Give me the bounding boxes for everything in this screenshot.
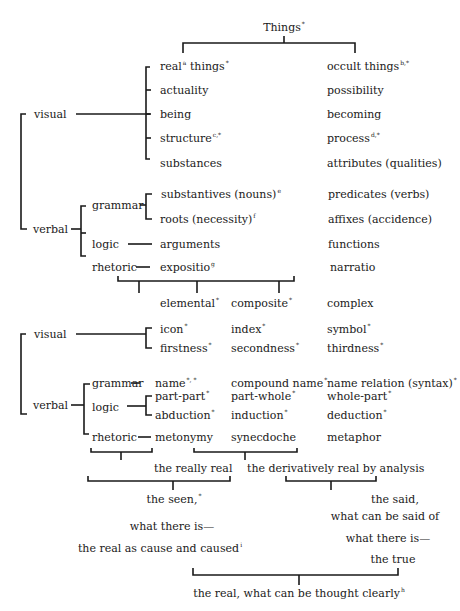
verbal-label: verbal xyxy=(33,223,68,236)
row-right: processd,* xyxy=(327,132,380,145)
seen-line: the seen,* xyxy=(147,493,202,506)
row-right: predicates (verbs) xyxy=(328,188,429,201)
rhetoric-label-2: rhetoric xyxy=(92,431,137,444)
occult-things-label: occult thingsb,* xyxy=(327,60,409,73)
grammar-label-2: grammar xyxy=(92,377,144,390)
logic-label-2: logic xyxy=(92,401,119,414)
header-composite: composite* xyxy=(231,297,292,310)
grammar-label: grammar xyxy=(92,199,144,212)
cell: deduction* xyxy=(327,409,386,422)
cell: induction* xyxy=(231,409,288,422)
really-real-label: the really real xyxy=(154,462,232,475)
row-left: substances xyxy=(160,157,222,170)
row-right: functions xyxy=(328,238,380,251)
rhetoric-label: rhetoric xyxy=(92,261,137,274)
cell: secondness* xyxy=(231,342,299,355)
said-line: the said, xyxy=(371,493,419,506)
cell: abduction* xyxy=(155,409,215,422)
row-left: arguments xyxy=(160,238,220,251)
logic-label: logic xyxy=(92,238,119,251)
said-line: the true xyxy=(371,553,416,566)
cell: metaphor xyxy=(327,431,381,444)
cell: icon* xyxy=(160,323,187,336)
said-line: what can be said of xyxy=(331,510,439,523)
cell: whole-part* xyxy=(327,390,391,403)
cell: part-whole* xyxy=(231,390,295,403)
root-label: Things* xyxy=(263,21,305,34)
cell: part-part* xyxy=(155,390,209,403)
real-things-label: reala things* xyxy=(160,60,229,73)
cell: thirdness* xyxy=(327,342,383,355)
row-right: narratio xyxy=(330,261,375,274)
cell: symbol* xyxy=(327,323,370,336)
row-left: roots (necessity)f xyxy=(160,213,256,226)
row-left: structurec,* xyxy=(160,132,221,145)
row-left: substantives (nouns)e xyxy=(161,188,281,201)
derivatively-real-label: the derivatively real by analysis xyxy=(247,462,424,475)
header-complex: complex xyxy=(327,297,374,310)
header-elemental: elemental* xyxy=(160,297,219,310)
cell: firstness* xyxy=(160,342,212,355)
cell: name*, * xyxy=(155,377,196,390)
cell: index* xyxy=(231,323,265,336)
row-left: actuality xyxy=(160,84,208,97)
row-right: becoming xyxy=(327,108,381,121)
seen-line: the real as cause and causedi xyxy=(78,542,242,555)
row-right: possibility xyxy=(327,84,384,97)
cell: metonymy xyxy=(155,431,213,444)
row-left: expositiog xyxy=(160,261,215,274)
row-right: affixes (accidence) xyxy=(328,213,432,226)
visual-label: visual xyxy=(34,108,67,121)
final-label: the real, what can be thought clearlyh xyxy=(193,587,405,600)
cell: compound name* xyxy=(231,377,327,390)
row-left: being xyxy=(160,108,191,121)
cell: synecdoche xyxy=(231,431,296,444)
visual-label-2: visual xyxy=(34,328,67,341)
said-line: what there is— xyxy=(346,532,430,545)
cell: name relation (syntax)* xyxy=(327,377,457,390)
row-right: attributes (qualities) xyxy=(327,157,442,170)
seen-line: what there is— xyxy=(130,520,214,533)
verbal-label-2: verbal xyxy=(33,399,68,412)
